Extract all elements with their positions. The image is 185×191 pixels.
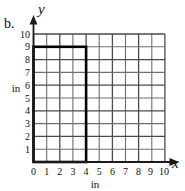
y-tick-label: 9 (25, 41, 30, 52)
x-tick-label: 5 (97, 166, 102, 177)
x-tick-label: 7 (123, 166, 128, 177)
y-tick-label: 6 (25, 80, 30, 91)
x-tick-label: 4 (84, 166, 89, 177)
y-tick-label: 7 (25, 67, 30, 78)
x-tick-label: 3 (70, 166, 75, 177)
x-axis-variable-label: x (171, 155, 179, 171)
y-tick-label: 2 (25, 131, 30, 142)
y-tick-label: 10 (20, 29, 30, 40)
y-axis-unit-label: in (12, 82, 21, 94)
x-axis-unit-label: in (91, 178, 100, 190)
coordinate-grid-figure: b. y x 0 1 2 3 4 5 6 7 8 9 10 1 2 3 4 5 … (0, 0, 185, 191)
x-tick-label: 2 (57, 166, 62, 177)
x-tick-label: 0 (31, 166, 36, 177)
y-tick-label: 3 (25, 118, 30, 129)
y-tick-label: 5 (25, 93, 30, 104)
x-tick-label: 8 (136, 166, 141, 177)
x-tick-label: 1 (44, 166, 49, 177)
x-tick-label: 6 (110, 166, 115, 177)
y-tick-label: 4 (25, 105, 30, 116)
x-tick-label: 10 (159, 166, 169, 177)
y-tick-label: 1 (25, 144, 30, 155)
problem-label: b. (4, 16, 15, 31)
y-tick-label: 8 (25, 54, 30, 65)
x-tick-label: 9 (148, 166, 153, 177)
graph-svg: b. y x 0 1 2 3 4 5 6 7 8 9 10 1 2 3 4 5 … (0, 0, 185, 191)
y-axis-variable-label: y (36, 1, 45, 17)
